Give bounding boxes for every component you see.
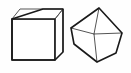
cube-front-face (12, 19, 55, 60)
figure-canvas (0, 0, 131, 73)
polyhedra-figure: Cube Cube viewed along a body diagonal C… (0, 0, 131, 73)
cube-shape (12, 9, 63, 60)
